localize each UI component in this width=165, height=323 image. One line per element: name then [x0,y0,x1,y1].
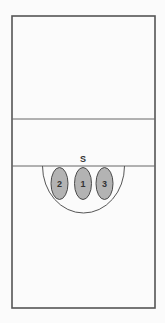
player-2: 2 [51,168,68,200]
player-3-label: 3 [102,179,107,189]
setter-label: S [80,154,86,164]
player-1: 1 [75,168,92,200]
player-3: 3 [96,168,113,200]
player-2-label: 2 [57,179,62,189]
player-1-label: 1 [80,179,85,189]
court-diagram: S 2 1 3 [0,0,165,323]
